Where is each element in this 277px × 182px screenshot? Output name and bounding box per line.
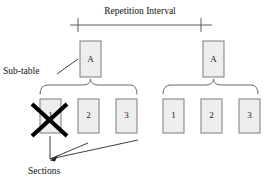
group-right-sections: 1 2 3: [163, 99, 260, 133]
section-box-left-3[interactable]: 3: [116, 99, 137, 133]
section-left-3-label: 3: [124, 110, 129, 120]
section-right-3-label: 3: [247, 110, 252, 120]
sub-table-label: Sub-table: [3, 66, 39, 76]
section-box-right-3[interactable]: 3: [239, 99, 260, 133]
subtable-right-label: A: [210, 54, 217, 64]
brace-right-path: [163, 79, 258, 94]
repetition-interval-measure: Repetition Interval: [70, 6, 212, 32]
section-box-right-2[interactable]: 2: [201, 99, 222, 133]
subtable-right[interactable]: A: [203, 41, 224, 77]
section-left-2-label: 2: [86, 110, 91, 120]
sections-label: Sections: [28, 166, 60, 176]
subtable-left-label: A: [87, 54, 94, 64]
section-box-left-2[interactable]: 2: [78, 99, 99, 133]
repetition-interval-title: Repetition Interval: [104, 6, 176, 16]
sub-table-annotation: Sub-table: [3, 59, 78, 76]
subtable-left[interactable]: A: [80, 41, 101, 77]
sections-leader-diagonal-far: [50, 140, 138, 159]
brace-left-path: [40, 79, 137, 94]
sections-annotation: Sections: [28, 136, 138, 176]
section-right-1-label: 1: [171, 110, 176, 120]
repetition-interval-diagram: Repetition Interval A A Sub-table: [0, 0, 277, 182]
diagram-canvas: Repetition Interval A A Sub-table: [0, 0, 277, 182]
group-right-brace: [163, 79, 258, 94]
group-left-brace: [40, 79, 137, 94]
section-box-right-1[interactable]: 1: [163, 99, 184, 133]
sub-table-leader-line: [57, 59, 78, 74]
section-right-2-label: 2: [209, 110, 214, 120]
